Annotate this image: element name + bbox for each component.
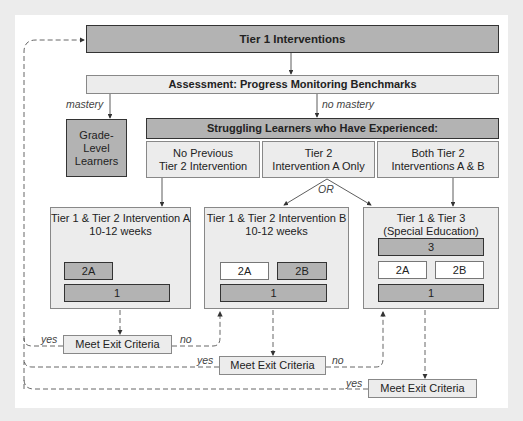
category-both-a-b: Both Tier 2 Interventions A & B (377, 141, 499, 178)
yes-label-a: yes (41, 333, 57, 345)
grade-level-learners-box: Grade- Level Learners (66, 119, 127, 177)
intervention-a-title: Tier 1 & Tier 2 Intervention A 10-12 wee… (51, 212, 190, 238)
intervention-b-title: Tier 1 & Tier 2 Intervention B 10-12 wee… (207, 212, 347, 238)
mastery-label: mastery (66, 98, 103, 110)
intervention-c-title: Tier 1 & Tier 3 (Special Education) (383, 212, 478, 238)
block-2b: 2B (435, 261, 484, 279)
exit-criteria-c: Meet Exit Criteria (368, 379, 477, 398)
assessment-box: Assessment: Progress Monitoring Benchmar… (86, 75, 499, 94)
no-mastery-label: no mastery (322, 98, 374, 110)
block-2a: 2A (378, 261, 427, 279)
exit-criteria-b: Meet Exit Criteria (219, 356, 326, 375)
or-label: OR (318, 183, 334, 195)
no-label-b: no (332, 354, 344, 366)
block-1: 1 (378, 284, 484, 302)
tier1-box: Tier 1 Interventions (86, 25, 499, 53)
category-intervention-a-only: Tier 2 Intervention A Only (262, 141, 375, 178)
block-1: 1 (64, 284, 170, 302)
block-2a: 2A (220, 262, 269, 280)
struggling-learners-box: Struggling Learners who Have Experienced… (146, 118, 499, 139)
dash-exit2-yes (24, 359, 219, 367)
yes-label-c: yes (346, 377, 362, 389)
yes-label-b: yes (197, 354, 213, 366)
exit-criteria-a: Meet Exit Criteria (63, 335, 172, 354)
block-2b: 2B (277, 262, 327, 280)
block-1: 1 (220, 284, 327, 302)
dash-exit3-yes (24, 379, 368, 389)
no-label-a: no (180, 333, 192, 345)
block-3: 3 (378, 238, 484, 256)
category-no-previous: No Previous Tier 2 Intervention (146, 141, 260, 178)
block-2a: 2A (64, 262, 113, 280)
